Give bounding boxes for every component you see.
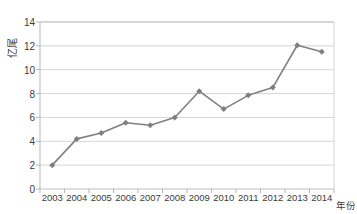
data-point [319,49,325,55]
plot-area [0,0,357,214]
data-point [98,130,104,136]
data-point [147,122,153,128]
y-axis-ticks [36,22,40,189]
data-point [123,120,129,126]
gridlines [40,22,334,189]
x-axis-ticks [40,189,334,193]
series-line [52,45,322,165]
x-axis-title: 年份 [336,198,356,212]
line-chart: 亿尾 0 2 4 6 8 10 12 14 [0,0,357,214]
axis-lines [40,22,334,189]
